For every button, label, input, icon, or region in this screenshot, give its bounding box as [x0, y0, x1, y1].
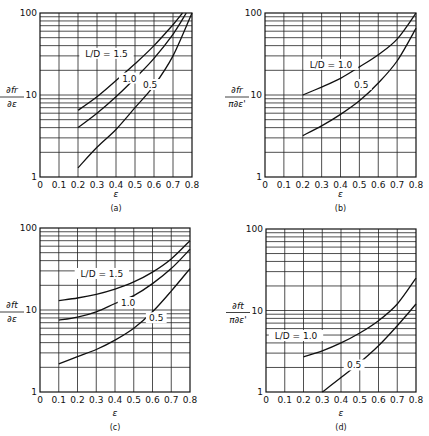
x-tick-label: 0.2 [296, 180, 310, 190]
panel-caption: (a) [110, 204, 121, 213]
x-tick-label: 0 [37, 180, 43, 190]
x-tick-label: 0.3 [90, 180, 104, 190]
svg-text:∂ε: ∂ε [7, 314, 17, 324]
curve-l-d-1-5 [78, 13, 183, 110]
panel-a: 11010000.10.20.30.40.50.60.70.8ε(a)∂fr∂ε… [0, 8, 199, 213]
series-label: 0.5 [143, 80, 157, 90]
x-tick-label: 0.6 [371, 180, 386, 190]
x-tick-label: 0.7 [164, 395, 178, 405]
panel-c: 11010000.10.20.30.40.50.60.70.8ε(c)∂ft∂ε… [0, 223, 197, 432]
x-tick-label: 0.8 [409, 180, 424, 190]
x-tick-label: 0.5 [353, 395, 367, 405]
panel-caption: (c) [110, 423, 121, 432]
series-label: 0.5 [149, 313, 163, 323]
x-tick-label: 0.2 [71, 180, 85, 190]
x-tick-label: 0.3 [314, 180, 328, 190]
grid [40, 228, 190, 392]
y-tick-label: 1 [31, 387, 37, 397]
x-tick-label: 0.1 [278, 395, 292, 405]
x-tick-label: 0.6 [371, 395, 386, 405]
x-tick-label: 0 [263, 395, 269, 405]
y-tick-label: 10 [252, 306, 264, 316]
x-tick-label: 0.5 [352, 180, 366, 190]
x-tick-label: 0.1 [52, 180, 66, 190]
x-tick-label: 0 [262, 180, 268, 190]
x-tick-label: 0.6 [145, 395, 160, 405]
svg-text:∂ε: ∂ε [7, 99, 17, 109]
series-label: L/D = 1.0 [275, 331, 318, 341]
series-label: L/D = 1.0 [310, 60, 353, 70]
y-tick-label: 100 [245, 8, 262, 18]
y-axis-label: ∂ft∂ε [0, 300, 24, 324]
y-tick-label: 1 [256, 172, 262, 182]
series-label: L/D = 1.5 [81, 269, 124, 279]
y-axis-label: ∂fr∂ε [0, 85, 24, 109]
panel-caption: (b) [335, 204, 346, 213]
svg-text:∂ft: ∂ft [232, 301, 244, 311]
panel-d: 11010000.10.20.30.40.50.60.70.8ε(d)∂ftπ∂… [226, 224, 423, 432]
x-tick-label: 0.8 [409, 395, 424, 405]
y-tick-labels: 110100 [20, 8, 37, 182]
svg-text:∂ft: ∂ft [6, 300, 18, 310]
svg-text:∂fr: ∂fr [6, 85, 19, 95]
x-tick-label: 0.4 [334, 395, 349, 405]
x-tick-label: 0.2 [296, 395, 310, 405]
grid [40, 13, 192, 177]
y-tick-labels: 110100 [246, 224, 263, 397]
y-tick-labels: 110100 [245, 8, 262, 182]
series-label: L/D = 1.5 [85, 49, 128, 59]
svg-text:π∂ε': π∂ε' [229, 315, 246, 325]
y-tick-label: 10 [26, 305, 38, 315]
curve-0-5 [322, 304, 416, 392]
x-tick-labels: 00.10.20.30.40.50.60.70.8 [263, 395, 423, 405]
series-label: 0.5 [347, 360, 361, 370]
x-tick-label: 0.7 [166, 180, 180, 190]
svg-text:π∂ε': π∂ε' [228, 99, 245, 109]
x-tick-label: 0.5 [128, 180, 142, 190]
panel-b: 11010000.10.20.30.40.50.60.70.8ε(b)∂frπ∂… [225, 8, 423, 213]
x-tick-label: 0.6 [147, 180, 162, 190]
y-tick-label: 1 [257, 387, 263, 397]
grid [265, 13, 416, 177]
y-tick-label: 100 [246, 224, 263, 234]
x-axis-label: ε [113, 408, 118, 418]
y-tick-label: 10 [251, 90, 263, 100]
x-tick-label: 0.4 [108, 395, 123, 405]
x-tick-label: 0 [37, 395, 43, 405]
series-label: 0.5 [354, 80, 368, 90]
y-axis-label: ∂frπ∂ε' [225, 85, 249, 109]
x-tick-labels: 00.10.20.30.40.50.60.70.8 [37, 395, 197, 405]
x-axis-label: ε [114, 189, 119, 199]
y-tick-label: 100 [20, 223, 37, 233]
y-tick-label: 10 [26, 90, 38, 100]
series-label: 1.0 [122, 74, 137, 84]
y-tick-label: 100 [20, 8, 37, 18]
x-tick-label: 0.2 [70, 395, 84, 405]
x-tick-label: 0.7 [390, 395, 404, 405]
grid [266, 229, 416, 392]
series-label: 1.0 [121, 298, 136, 308]
y-tick-label: 1 [31, 172, 37, 182]
x-tick-label: 0.8 [185, 180, 200, 190]
x-tick-label: 0.8 [183, 395, 198, 405]
x-tick-label: 0.3 [89, 395, 103, 405]
x-tick-label: 0.3 [315, 395, 329, 405]
x-tick-label: 0.7 [390, 180, 404, 190]
x-tick-label: 0.1 [277, 180, 291, 190]
x-axis-label: ε [338, 189, 343, 199]
panel-caption: (d) [335, 423, 346, 432]
svg-text:∂fr: ∂fr [231, 85, 244, 95]
x-tick-label: 0.5 [127, 395, 141, 405]
y-axis-label: ∂ftπ∂ε' [226, 301, 250, 325]
x-axis-label: ε [339, 408, 344, 418]
x-tick-label: 0.1 [52, 395, 66, 405]
four-panel-log-chart: 11010000.10.20.30.40.50.60.70.8ε(a)∂fr∂ε… [0, 0, 429, 436]
figure-grid: 11010000.10.20.30.40.50.60.70.8ε(a)∂fr∂ε… [0, 0, 429, 436]
y-tick-labels: 110100 [20, 223, 37, 397]
